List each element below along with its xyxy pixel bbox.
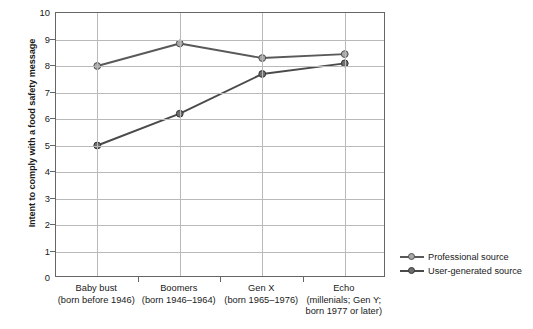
gridline-horizontal: [56, 199, 384, 200]
gridline-vertical: [97, 13, 98, 276]
gridline-horizontal: [56, 225, 384, 226]
y-tick-label: 7: [10, 86, 50, 97]
gridline-horizontal: [56, 252, 384, 253]
x-category-name: Echo: [289, 283, 399, 295]
y-axis-ticks: 109876543210: [0, 12, 50, 277]
y-tick-label: 3: [10, 192, 50, 203]
x-tick-mark: [220, 277, 221, 282]
gridline-horizontal: [56, 66, 384, 67]
gridline-horizontal: [56, 40, 384, 41]
legend-label: Professional source: [428, 252, 509, 262]
x-category-label: Echo(millenials; Gen Y;born 1977 or late…: [289, 283, 399, 318]
plot-area: [55, 12, 385, 277]
gridline-vertical: [262, 13, 263, 276]
legend-item[interactable]: User-generated source: [400, 264, 533, 277]
chart-legend: Professional sourceUser-generated source: [400, 250, 533, 278]
x-axis-labels: Baby bust(born before 1946)Boomers(born …: [0, 283, 533, 329]
y-tick-label: 5: [10, 139, 50, 150]
legend-marker-icon: [400, 265, 424, 276]
y-tick-label: 10: [10, 7, 50, 18]
legend-dot: [408, 253, 415, 260]
series-line: [97, 63, 345, 145]
gridline-vertical: [180, 13, 181, 276]
legend-marker-icon: [400, 251, 424, 262]
gridline-horizontal: [56, 172, 384, 173]
x-category-sublabel: born 1977 or later): [289, 306, 399, 318]
y-tick-label: 1: [10, 245, 50, 256]
gridline-horizontal: [56, 146, 384, 147]
gridline-horizontal: [56, 93, 384, 94]
y-tick-label: 0: [10, 272, 50, 283]
legend-dot: [408, 267, 415, 274]
gridline-vertical: [345, 13, 346, 276]
y-tick-label: 6: [10, 113, 50, 124]
x-category-sublabel: (millenials; Gen Y;: [289, 295, 399, 307]
legend-label: User-generated source: [428, 266, 522, 276]
x-tick-mark: [303, 277, 304, 282]
series-line: [97, 43, 345, 66]
x-tick-mark: [138, 277, 139, 282]
y-tick-label: 4: [10, 166, 50, 177]
line-chart-figure: Intent to comply with a food safety mess…: [0, 0, 533, 329]
legend-item[interactable]: Professional source: [400, 250, 533, 263]
y-tick-label: 8: [10, 60, 50, 71]
gridline-horizontal: [56, 119, 384, 120]
y-tick-label: 9: [10, 33, 50, 44]
y-tick-label: 2: [10, 219, 50, 230]
